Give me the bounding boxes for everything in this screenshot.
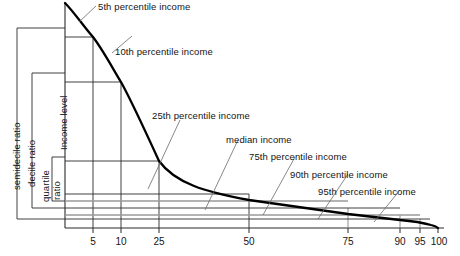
leader-line-p25: [148, 120, 180, 189]
bracket-label-decile-ratio: decile ratio: [26, 140, 37, 187]
annotation-median-income: median income: [226, 134, 292, 145]
x-tick-label-75: 75: [338, 236, 358, 247]
x-axis-ticks: [93, 228, 438, 233]
x-tick-label-25: 25: [149, 236, 169, 247]
bracket-label-semidecile-ratio: semidecile ratio: [11, 122, 22, 190]
annotation-95th-percentile-income: 95th percentile income: [318, 186, 416, 197]
annotation-90th-percentile-income: 90th percentile income: [290, 169, 388, 180]
percentile-drop-lines: [93, 37, 420, 228]
x-tick-label-10: 10: [111, 236, 131, 247]
annotation-25th-percentile-income: 25th percentile income: [152, 110, 250, 121]
x-tick-label-5: 5: [83, 236, 103, 247]
annotation-10th-percentile-income: 10th percentile income: [115, 46, 213, 57]
x-tick-label-100: 100: [427, 236, 451, 247]
income-distribution-figure: semidecile ratio decile ratio quartile r…: [0, 0, 460, 256]
leader-line-p50: [205, 140, 238, 210]
x-tick-label-90: 90: [390, 236, 410, 247]
bracket-label-quartile: quartile: [40, 170, 51, 202]
y-axis-label-income-level: Income level: [58, 95, 69, 150]
annotation-75th-percentile-income: 75th percentile income: [249, 151, 347, 162]
chart-canvas: [0, 0, 460, 256]
bracket-label-quartile-ratio-second-line: ratio: [51, 181, 62, 200]
annotation-5th-percentile-income: 5th percentile income: [98, 1, 190, 12]
leader-line-p5: [79, 6, 96, 22]
x-tick-label-50: 50: [239, 236, 259, 247]
